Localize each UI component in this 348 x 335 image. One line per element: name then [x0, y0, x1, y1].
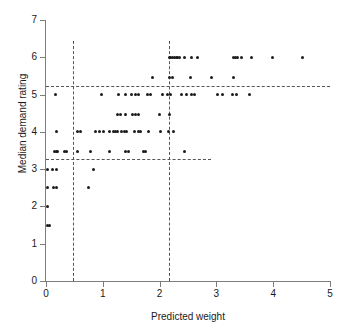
data-point [210, 76, 213, 79]
data-point [159, 130, 162, 133]
x-tick-3 [216, 282, 217, 287]
y-tick-7 [40, 20, 45, 21]
data-point [137, 113, 140, 116]
data-point [178, 56, 181, 59]
y-tick-label-4: 4 [17, 127, 37, 137]
data-point [55, 168, 58, 171]
data-point [100, 93, 103, 96]
data-point [250, 56, 253, 59]
data-point [149, 93, 152, 96]
y-tick-label-5: 5 [17, 90, 37, 100]
data-point [102, 130, 105, 133]
y-tick-label-1: 1 [17, 239, 37, 249]
data-point [231, 93, 234, 96]
y-tick-2 [40, 206, 45, 207]
data-point [158, 113, 161, 116]
data-point [221, 93, 224, 96]
data-point [46, 186, 49, 189]
data-point [56, 150, 59, 153]
data-point [147, 130, 150, 133]
data-point [79, 130, 82, 133]
data-point [48, 224, 51, 227]
y-tick-label-6: 6 [17, 52, 37, 62]
x-axis-label: Predicted weight [46, 311, 330, 322]
x-tick-label-1: 1 [93, 289, 113, 299]
data-point [108, 130, 111, 133]
data-point [196, 56, 199, 59]
x-tick-label-5: 5 [320, 289, 340, 299]
data-point [54, 93, 57, 96]
data-point [301, 56, 304, 59]
data-point [119, 113, 122, 116]
data-point [116, 113, 119, 116]
y-tick-label-2: 2 [17, 201, 37, 211]
data-point [98, 130, 101, 133]
data-point [235, 93, 238, 96]
y-tick-4 [40, 132, 45, 133]
x-tick-label-2: 2 [150, 289, 170, 299]
data-point [271, 56, 274, 59]
x-tick-label-4: 4 [263, 289, 283, 299]
y-tick-3 [40, 169, 45, 170]
x-tick-4 [273, 282, 274, 287]
data-point [185, 93, 188, 96]
data-point [51, 168, 54, 171]
x-tick-1 [103, 282, 104, 287]
data-point [183, 150, 186, 153]
x-tick-0 [46, 282, 47, 287]
data-point [108, 150, 111, 153]
data-point [92, 168, 95, 171]
data-point [117, 93, 120, 96]
x-tick-2 [160, 282, 161, 287]
data-point [144, 150, 147, 153]
x-tick-label-0: 0 [36, 289, 56, 299]
data-point [171, 76, 174, 79]
data-point [89, 150, 92, 153]
data-point [240, 56, 243, 59]
data-point [139, 130, 142, 133]
data-point [248, 93, 251, 96]
data-point [137, 93, 140, 96]
y-tick-6 [40, 57, 45, 58]
y-tick-1 [40, 244, 45, 245]
data-point [46, 205, 49, 208]
data-point [189, 76, 192, 79]
data-point [151, 76, 154, 79]
y-tick-label-3: 3 [17, 164, 37, 174]
x-axis-line [45, 281, 331, 282]
data-point [180, 93, 183, 96]
data-point [167, 130, 170, 133]
data-point [232, 76, 235, 79]
data-point [183, 56, 186, 59]
y-axis-label: Median demand rating [17, 44, 28, 204]
data-point [130, 93, 133, 96]
data-point [116, 130, 119, 133]
data-point [87, 186, 90, 189]
data-point [55, 186, 58, 189]
data-point [55, 130, 58, 133]
data-point [169, 93, 172, 96]
y-tick-5 [40, 95, 45, 96]
data-point [125, 130, 128, 133]
y-tick-0 [40, 281, 45, 282]
data-point [216, 93, 219, 96]
data-point [94, 130, 97, 133]
x-tick-5 [330, 282, 331, 287]
data-point [133, 130, 136, 133]
data-point [193, 93, 196, 96]
data-point [124, 113, 127, 116]
data-point [172, 130, 175, 133]
data-point [190, 56, 193, 59]
data-point [124, 93, 127, 96]
data-point [161, 93, 164, 96]
data-point [76, 150, 79, 153]
plot-data-area [46, 20, 330, 281]
y-tick-label-7: 7 [17, 15, 37, 25]
scatter-plot-figure: Predicted weight Median demand rating 01… [0, 0, 348, 335]
y-tick-label-0: 0 [17, 276, 37, 286]
data-point [65, 150, 68, 153]
data-point [46, 168, 49, 171]
data-point [168, 113, 171, 116]
data-point [127, 150, 130, 153]
x-tick-label-3: 3 [206, 289, 226, 299]
